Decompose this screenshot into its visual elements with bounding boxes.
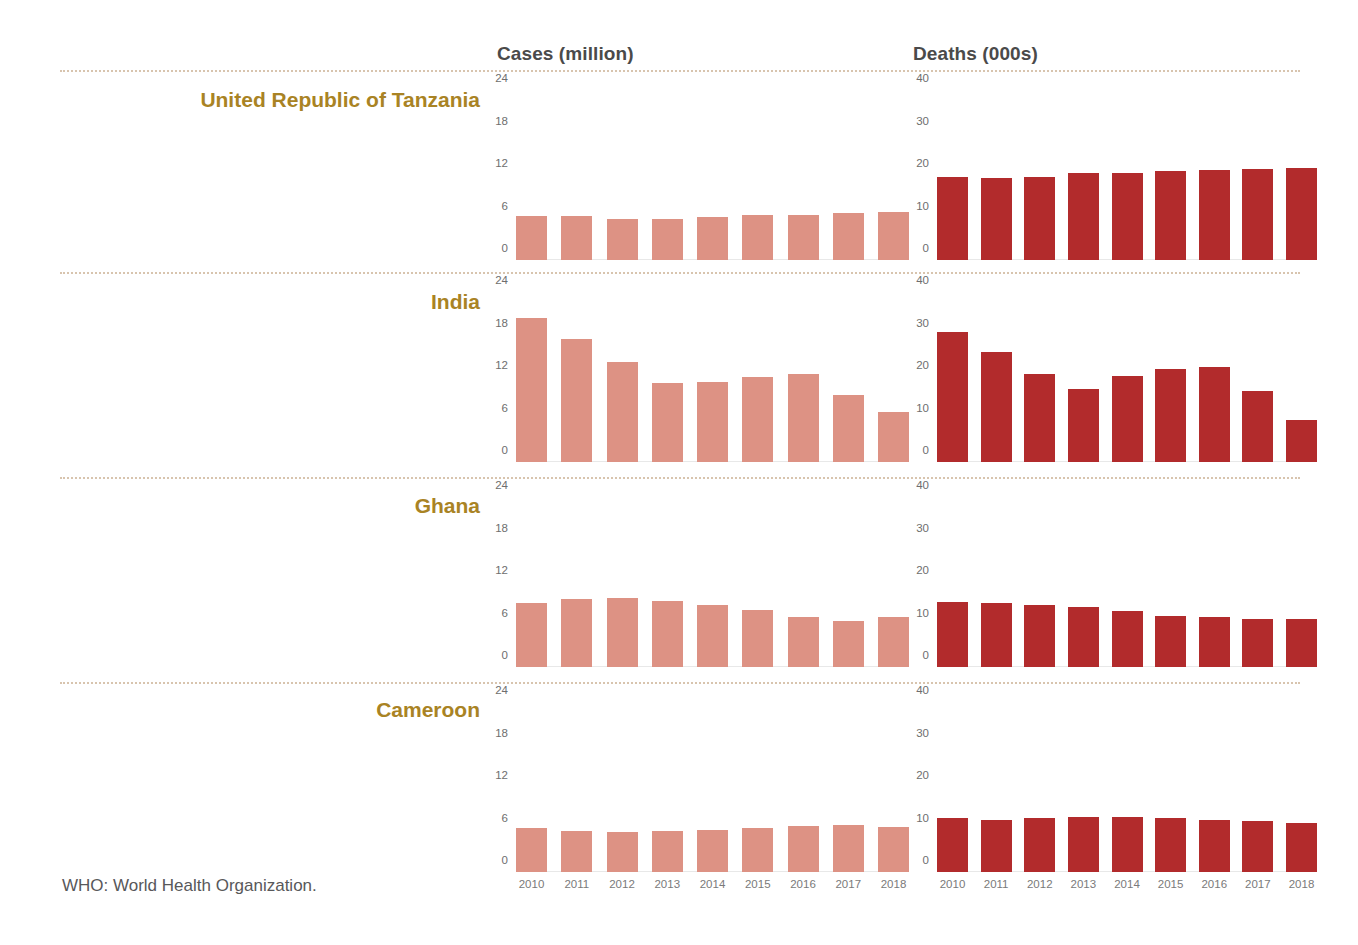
bar [1068, 607, 1099, 667]
y-axis-tick: 20 [916, 359, 929, 371]
y-axis-tick: 30 [916, 522, 929, 534]
y-axis-tick: 6 [502, 812, 508, 824]
bar [1286, 420, 1317, 462]
y-axis-tick: 18 [495, 727, 508, 739]
row-separator [60, 477, 1300, 479]
bar [516, 318, 547, 462]
plot-area-deaths: 010203040 [937, 497, 1317, 667]
y-axis-tick: 6 [502, 402, 508, 414]
x-axis-tick: 2018 [1286, 878, 1317, 894]
y-axis-tick: 30 [916, 727, 929, 739]
bar [937, 818, 968, 872]
y-axis-tick: 20 [916, 769, 929, 781]
bar [788, 617, 819, 667]
country-label: Ghana [60, 494, 480, 518]
plot-area-deaths: 010203040 [937, 292, 1317, 462]
bar [788, 215, 819, 260]
bar [1286, 823, 1317, 872]
y-axis-tick: 18 [495, 317, 508, 329]
y-axis-tick: 0 [923, 444, 929, 456]
plot-area-cases: 06121824 [516, 292, 909, 462]
y-axis-tick: 0 [502, 444, 508, 456]
y-axis-tick: 0 [923, 242, 929, 254]
bar [561, 831, 592, 872]
bar [516, 603, 547, 667]
y-axis-tick: 12 [495, 564, 508, 576]
bar [878, 827, 909, 872]
y-axis-tick: 30 [916, 317, 929, 329]
bar [1155, 818, 1186, 872]
bar [1286, 619, 1317, 667]
bar [1068, 389, 1099, 462]
y-axis-tick: 10 [916, 812, 929, 824]
bar [652, 383, 683, 462]
y-axis-tick: 24 [495, 72, 508, 84]
bar [607, 219, 638, 260]
x-axis-tick: 2010 [516, 878, 547, 894]
y-axis-tick: 30 [916, 115, 929, 127]
y-axis-tick: 24 [495, 479, 508, 491]
country-label: United Republic of Tanzania [60, 88, 480, 112]
column-header-cases: Cases (million) [497, 43, 634, 65]
bar [1199, 170, 1230, 260]
bar [742, 377, 773, 462]
y-axis-tick: 0 [923, 854, 929, 866]
x-axis-tick: 2018 [878, 878, 909, 894]
y-axis-tick: 12 [495, 769, 508, 781]
y-axis-tick: 6 [502, 200, 508, 212]
x-axis-tick: 2016 [788, 878, 819, 894]
y-axis-tick: 12 [495, 359, 508, 371]
bar [833, 213, 864, 260]
bar [1155, 171, 1186, 260]
bar [697, 605, 728, 667]
malaria-burden-chart: Cases (million) Deaths (000s) United Rep… [0, 0, 1358, 945]
bar [788, 826, 819, 872]
bar-group [516, 497, 909, 667]
x-axis-cases: 201020112012201320142015201620172018 [516, 878, 909, 894]
y-axis-tick: 0 [502, 649, 508, 661]
x-axis-tick: 2012 [607, 878, 638, 894]
bar [652, 831, 683, 872]
x-axis-tick: 2011 [981, 878, 1012, 894]
bar [742, 610, 773, 667]
bar [1242, 391, 1273, 462]
bar [833, 395, 864, 462]
y-axis-tick: 0 [502, 242, 508, 254]
bar [607, 832, 638, 872]
country-label: India [60, 290, 480, 314]
bar [1155, 369, 1186, 462]
bar [1112, 817, 1143, 872]
bar [1112, 611, 1143, 667]
bar [652, 219, 683, 260]
x-axis-tick: 2011 [561, 878, 592, 894]
y-axis-tick: 40 [916, 479, 929, 491]
bar [742, 215, 773, 260]
bar [833, 621, 864, 667]
plot-area-cases: 06121824 [516, 90, 909, 260]
bar [833, 825, 864, 872]
x-axis-tick: 2012 [1024, 878, 1055, 894]
x-axis-tick: 2014 [697, 878, 728, 894]
y-axis-tick: 40 [916, 72, 929, 84]
bar-group [937, 90, 1317, 260]
source-footnote: WHO: World Health Organization. [62, 876, 317, 896]
bar [1024, 605, 1055, 667]
bar [981, 178, 1012, 260]
bar-group [516, 702, 909, 872]
bar [607, 362, 638, 462]
bar [1286, 168, 1317, 260]
bar-group [937, 497, 1317, 667]
x-axis-tick: 2014 [1112, 878, 1143, 894]
bar [561, 216, 592, 260]
y-axis-tick: 18 [495, 115, 508, 127]
y-axis-tick: 40 [916, 684, 929, 696]
bar [981, 603, 1012, 667]
x-axis-tick: 2013 [1068, 878, 1099, 894]
bar [1068, 173, 1099, 260]
y-axis-tick: 10 [916, 607, 929, 619]
y-axis-tick: 0 [502, 854, 508, 866]
bar [1155, 616, 1186, 667]
y-axis-tick: 10 [916, 402, 929, 414]
bar [561, 339, 592, 462]
x-axis-tick: 2016 [1199, 878, 1230, 894]
